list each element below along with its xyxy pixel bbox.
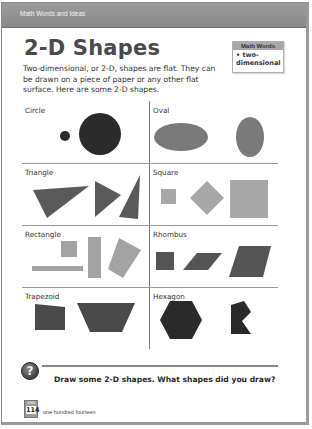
question-prompt: Draw some 2-D shapes. What shapes did yo… [54,375,275,384]
section-label: Math Words and Ideas [20,10,85,17]
triangle-shapes-icon [22,163,149,225]
oval-shapes-icon [150,101,277,163]
page-title: 2-D Shapes [24,36,160,60]
shape-cell-triangle: Triangle [22,163,149,225]
shape-cell-hexagon: Hexagon [150,287,277,349]
page-number-badge: SMB 114 [24,400,38,418]
shape-cell-square: Square [150,163,277,225]
question-rule [42,365,278,367]
page: Math Words and Ideas 2-D Shapes Two-dime… [1,2,309,425]
shape-cell-circle: Circle [22,101,149,163]
trapezoid-shapes-icon [22,287,149,349]
header-band: Math Words and Ideas [2,3,306,28]
square-shapes-icon [150,163,277,225]
page-number: 114 [26,406,36,414]
shape-cell-rhombus: Rhombus [150,225,277,287]
math-words-heading: Math Words [233,42,283,50]
rhombus-shapes-icon [150,225,277,287]
shape-cell-rectangle: Rectangle [22,225,149,287]
math-word-item: • two-dimensional [233,50,283,69]
hexagon-shapes-icon [150,287,277,349]
question-mark-icon: ? [21,362,39,380]
page-number-words: one hundred fourteen [43,409,96,415]
circle-shapes-icon [22,101,149,163]
shape-cell-trapezoid: Trapezoid [22,287,149,349]
shape-cell-oval: Oval [150,101,277,163]
intro-paragraph: Two-dimensional, or 2-D, shapes are flat… [23,64,223,96]
rectangle-shapes-icon [22,225,149,287]
shapes-grid: Circle Oval Triangle Square [22,101,278,349]
math-words-box: Math Words • two-dimensional [232,41,284,73]
